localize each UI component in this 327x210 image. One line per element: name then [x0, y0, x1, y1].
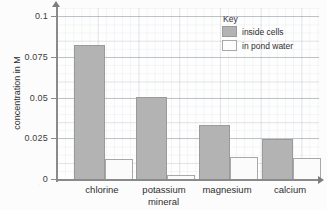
y-tick-mark-0.1: [51, 16, 57, 17]
y-axis-arrow-icon: [52, 1, 60, 7]
bar-calcium-inside-cells: [262, 139, 293, 180]
y-tick-mark-0: [51, 179, 57, 180]
bar-chlorine-in-pond-water: [105, 159, 133, 180]
x-axis-arrow-icon: [318, 176, 324, 184]
bar-magnesium-in-pond-water: [230, 157, 258, 180]
legend: Key inside cells in pond water: [222, 14, 315, 54]
x-axis-line: [56, 179, 320, 181]
y-tick-mark-0.075: [51, 57, 57, 58]
y-tick-label-0.05: 0.05: [30, 93, 48, 103]
legend-item-inside-cells: inside cells: [222, 26, 315, 37]
x-axis-title: mineral: [0, 196, 327, 207]
bar-potassium-inside-cells: [136, 97, 167, 180]
y-tick-label-0.025: 0.025: [24, 133, 48, 143]
legend-title: Key: [222, 14, 315, 24]
legend-label-inside-cells: inside cells: [242, 27, 284, 37]
bar-chlorine-inside-cells: [74, 45, 105, 180]
y-tick-label-0: 0: [43, 174, 48, 184]
legend-item-in-pond-water: in pond water: [222, 40, 315, 51]
legend-swatch-inside-cells: [222, 26, 237, 37]
bar-calcium-in-pond-water: [293, 158, 321, 180]
y-axis-line: [56, 5, 58, 182]
legend-swatch-in-pond-water: [222, 40, 237, 51]
bar-chart: 0.1 0.075 0.05 0.025 0 chlorine potassiu…: [0, 0, 327, 210]
x-tick-label-calcium: calcium: [250, 184, 327, 195]
y-tick-mark-0.05: [51, 98, 57, 99]
y-tick-label-0.075: 0.075: [24, 52, 48, 62]
y-tick-mark-0.025: [51, 138, 57, 139]
y-axis-title: concentration in M: [12, 28, 22, 158]
legend-label-in-pond-water: in pond water: [242, 41, 293, 51]
y-tick-label-0.1: 0.1: [35, 11, 48, 21]
bar-magnesium-inside-cells: [199, 125, 230, 180]
